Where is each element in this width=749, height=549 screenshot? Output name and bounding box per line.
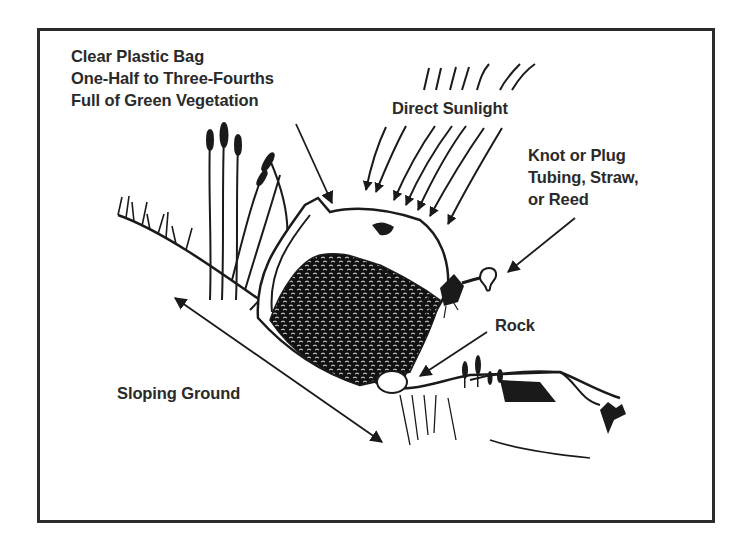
- sunlight-label: Direct Sunlight: [392, 97, 508, 119]
- knot-label-line-2: Tubing, Straw,: [528, 166, 638, 188]
- sunlight-label-text: Direct Sunlight: [392, 97, 508, 119]
- knot-label-line-3: or Reed: [528, 188, 638, 210]
- bag-label-line-2: One-Half to Three-Fourths: [71, 67, 274, 89]
- bag-label-line-3: Full of Green Vegetation: [71, 89, 274, 111]
- slope-label: Sloping Ground: [117, 382, 240, 404]
- rock: [377, 371, 407, 393]
- sunlight-rays-arrows: [366, 126, 502, 224]
- small-trees: [462, 355, 503, 388]
- bag-pointer-arrow: [296, 124, 332, 203]
- knot-pointer-arrow: [508, 218, 575, 272]
- rock-label: Rock: [495, 314, 535, 336]
- rock-label-text: Rock: [495, 314, 535, 336]
- bag-label: Clear Plastic Bag One-Half to Three-Four…: [71, 45, 274, 111]
- knot-label: Knot or Plug Tubing, Straw, or Reed: [528, 144, 638, 210]
- knot-label-line-1: Knot or Plug: [528, 144, 638, 166]
- bag-label-line-1: Clear Plastic Bag: [71, 45, 274, 67]
- sunlight-rays-top: [424, 64, 535, 90]
- slope-label-text: Sloping Ground: [117, 382, 240, 404]
